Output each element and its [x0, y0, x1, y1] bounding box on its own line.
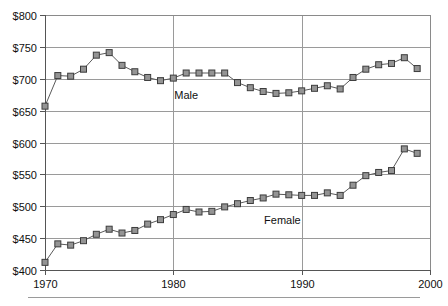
data-point-marker — [299, 88, 305, 94]
y-tick-label: $600 — [13, 138, 37, 150]
data-point-marker — [119, 230, 125, 236]
data-point-marker — [363, 173, 369, 179]
data-point-marker — [376, 169, 382, 175]
data-point-marker — [286, 90, 292, 96]
data-point-marker — [209, 70, 215, 76]
series-label-female: Female — [264, 214, 301, 226]
data-point-marker — [145, 74, 151, 80]
y-tick-label: $650 — [13, 106, 37, 118]
data-point-marker — [93, 231, 99, 237]
data-point-marker — [376, 62, 382, 68]
data-point-marker — [55, 241, 61, 247]
data-point-marker — [132, 69, 138, 75]
data-point-marker — [106, 50, 112, 56]
data-point-marker — [312, 192, 318, 198]
x-tick-label: 1990 — [290, 278, 314, 290]
data-point-marker — [273, 191, 279, 197]
data-point-marker — [299, 192, 305, 198]
data-point-marker — [414, 66, 420, 72]
data-point-marker — [260, 89, 266, 95]
x-tick-label: 1980 — [161, 278, 185, 290]
data-point-marker — [247, 85, 253, 91]
data-point-marker — [235, 80, 241, 86]
data-point-marker — [389, 60, 395, 66]
x-tick-label: 2000 — [418, 278, 442, 290]
y-tick-label: $500 — [13, 201, 37, 213]
data-point-marker — [68, 73, 74, 79]
data-point-marker — [363, 66, 369, 72]
data-point-marker — [119, 62, 125, 68]
y-tick-label: $550 — [13, 169, 37, 181]
data-point-marker — [222, 204, 228, 210]
data-point-marker — [414, 150, 420, 156]
data-point-marker — [350, 74, 356, 80]
data-point-marker — [81, 66, 87, 72]
data-point-marker — [273, 90, 279, 96]
data-point-marker — [170, 75, 176, 81]
dual-line-chart: $800$750$700$650$600$550$500$450$400 197… — [0, 0, 448, 306]
data-point-marker — [145, 221, 151, 227]
data-point-marker — [312, 85, 318, 91]
data-point-marker — [337, 86, 343, 92]
data-point-marker — [55, 73, 61, 79]
data-point-marker — [324, 83, 330, 89]
y-tick-label: $400 — [13, 265, 37, 277]
data-point-marker — [42, 103, 48, 109]
data-point-marker — [42, 259, 48, 265]
data-point-marker — [324, 190, 330, 196]
data-point-marker — [350, 182, 356, 188]
data-point-marker — [222, 70, 228, 76]
y-tick-label: $800 — [13, 10, 37, 22]
y-tick-label: $450 — [13, 233, 37, 245]
data-point-marker — [183, 70, 189, 76]
data-point-marker — [389, 168, 395, 174]
data-point-marker — [401, 146, 407, 152]
data-point-marker — [235, 201, 241, 207]
y-tick-label: $750 — [13, 42, 37, 54]
data-point-marker — [158, 217, 164, 223]
data-point-marker — [93, 52, 99, 58]
data-point-marker — [209, 208, 215, 214]
data-point-marker — [106, 226, 112, 232]
chart-background — [0, 0, 448, 306]
chart-container: $800$750$700$650$600$550$500$450$400 197… — [0, 0, 448, 306]
data-point-marker — [170, 212, 176, 218]
y-tick-label: $700 — [13, 74, 37, 86]
data-point-marker — [401, 55, 407, 61]
data-point-marker — [196, 209, 202, 215]
x-tick-label: 1970 — [33, 278, 57, 290]
data-point-marker — [183, 206, 189, 212]
data-point-marker — [68, 242, 74, 248]
data-point-marker — [286, 192, 292, 198]
data-point-marker — [337, 192, 343, 198]
data-point-marker — [260, 195, 266, 201]
data-point-marker — [158, 78, 164, 84]
data-point-marker — [81, 238, 87, 244]
series-label-male: Male — [174, 89, 198, 101]
data-point-marker — [196, 70, 202, 76]
data-point-marker — [247, 198, 253, 204]
data-point-marker — [132, 227, 138, 233]
